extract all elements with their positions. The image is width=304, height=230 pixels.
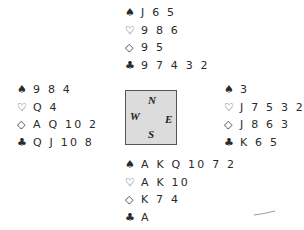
west-spades-cards: 9 8 4 [33, 83, 72, 96]
heart-icon: ♡ [125, 22, 141, 40]
north-spades-cards: J 6 5 [141, 6, 176, 19]
south-diamonds: ◇K 7 4 [125, 191, 236, 209]
east-diamonds: ◇J 8 6 3 [224, 116, 304, 134]
diamond-icon: ◇ [125, 39, 141, 57]
diamond-icon: ◇ [17, 116, 33, 134]
east-hand: ♠3 ♡J 7 5 3 2 ◇J 8 6 3 ♣K 6 5 [224, 81, 304, 151]
west-diamonds-cards: A Q 10 2 [33, 118, 98, 131]
spade-icon: ♠ [17, 81, 33, 99]
south-spades: ♠A K Q 10 7 2 [125, 156, 236, 174]
compass-west: W [130, 110, 140, 122]
west-clubs: ♣Q J 10 8 [17, 134, 98, 152]
east-hearts: ♡J 7 5 3 2 [224, 99, 304, 117]
east-spades-cards: 3 [240, 83, 249, 96]
compass-north: N [148, 94, 156, 106]
south-hearts: ♡A K 10 [125, 174, 236, 192]
south-diamonds-cards: K 7 4 [141, 193, 180, 206]
heart-icon: ♡ [17, 99, 33, 117]
south-clubs-cards: A [141, 211, 151, 224]
compass-box: N W E S [125, 90, 177, 145]
pen-stroke-mark [253, 210, 277, 216]
north-hearts-cards: 9 8 6 [141, 24, 180, 37]
compass-east: E [165, 113, 172, 125]
north-diamonds: ◇9 5 [125, 39, 210, 57]
club-icon: ♣ [17, 134, 33, 152]
club-icon: ♣ [125, 57, 141, 75]
north-clubs: ♣9 7 4 3 2 [125, 57, 210, 75]
north-hearts: ♡9 8 6 [125, 22, 210, 40]
west-hearts-cards: Q 4 [33, 101, 59, 114]
west-diamonds: ◇A Q 10 2 [17, 116, 98, 134]
north-spades: ♠J 6 5 [125, 4, 210, 22]
heart-icon: ♡ [125, 174, 141, 192]
south-spades-cards: A K Q 10 7 2 [141, 158, 236, 171]
north-clubs-cards: 9 7 4 3 2 [141, 59, 210, 72]
east-clubs: ♣K 6 5 [224, 134, 304, 152]
east-hearts-cards: J 7 5 3 2 [240, 101, 304, 114]
west-hearts: ♡Q 4 [17, 99, 98, 117]
diamond-icon: ◇ [224, 116, 240, 134]
compass-south: S [148, 128, 154, 140]
west-spades: ♠9 8 4 [17, 81, 98, 99]
south-hearts-cards: A K 10 [141, 176, 190, 189]
club-icon: ♣ [224, 134, 240, 152]
heart-icon: ♡ [224, 99, 240, 117]
east-spades: ♠3 [224, 81, 304, 99]
east-clubs-cards: K 6 5 [240, 136, 279, 149]
diamond-icon: ◇ [125, 191, 141, 209]
spade-icon: ♠ [125, 156, 141, 174]
south-clubs: ♣A [125, 209, 236, 227]
spade-icon: ♠ [125, 4, 141, 22]
west-clubs-cards: Q J 10 8 [33, 136, 94, 149]
north-hand: ♠J 6 5 ♡9 8 6 ◇9 5 ♣9 7 4 3 2 [125, 4, 210, 74]
spade-icon: ♠ [224, 81, 240, 99]
club-icon: ♣ [125, 209, 141, 227]
north-diamonds-cards: 9 5 [141, 41, 165, 54]
south-hand: ♠A K Q 10 7 2 ♡A K 10 ◇K 7 4 ♣A [125, 156, 236, 226]
east-diamonds-cards: J 8 6 3 [240, 118, 290, 131]
west-hand: ♠9 8 4 ♡Q 4 ◇A Q 10 2 ♣Q J 10 8 [17, 81, 98, 151]
